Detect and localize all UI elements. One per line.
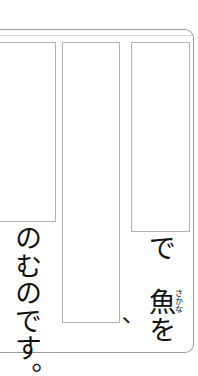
page-frame-inner-rule [0, 35, 194, 36]
ruby-group-sakana: 魚を さかな [147, 288, 174, 343]
vertical-text-right-particle: で [147, 234, 174, 261]
vertical-text-right-word: 魚を さかな [147, 288, 174, 343]
answer-box-right[interactable] [131, 42, 190, 232]
furigana-sakana: さかな [173, 289, 181, 313]
answer-box-middle[interactable] [62, 42, 120, 323]
vertical-text-left-column: のむのです。 [13, 224, 40, 376]
punctuation-comma: 、 [104, 316, 128, 340]
kanji-sakana: 魚を [145, 288, 176, 343]
answer-box-left[interactable] [0, 42, 56, 222]
